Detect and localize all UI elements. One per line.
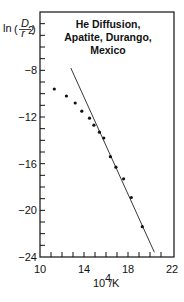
data-point [102, 136, 105, 139]
y-tick-label: −16 [18, 158, 37, 170]
data-point [92, 124, 95, 127]
ylabel-right-paren: ) [32, 23, 36, 35]
data-point [109, 155, 112, 158]
data-point [141, 225, 144, 228]
title-line-1: He Diffusion, [76, 18, 141, 30]
arrhenius-plot: 10141822 −8−12−16−20−24 He Diffusion, Ap… [0, 0, 184, 302]
ylabel-left-paren: ( [14, 23, 18, 35]
x-axis-label: 10 4 /K [93, 272, 120, 289]
x-tick-label: 22 [166, 263, 178, 275]
title-line-2: Apatite, Durango, [64, 31, 152, 43]
y-tick-label: −24 [18, 251, 37, 263]
title-line-3: Mexico [90, 44, 126, 56]
regression-line [71, 68, 155, 252]
xlabel-suffix: /K [109, 277, 120, 289]
data-point [122, 177, 125, 180]
data-point [80, 110, 83, 113]
data-point [88, 117, 91, 120]
x-tick-label: 10 [34, 263, 46, 275]
data-point [98, 131, 101, 134]
y-tick-label: −8 [24, 64, 37, 76]
x-tick-label: 18 [122, 263, 134, 275]
y-axis-tick-labels: −8−12−16−20−24 [18, 64, 37, 263]
ylabel-ln: ln [3, 22, 12, 34]
data-point [114, 166, 117, 169]
data-point [53, 87, 56, 90]
data-points [53, 87, 144, 228]
y-tick-label: −12 [18, 111, 37, 123]
chart-title: He Diffusion, Apatite, Durango, Mexico [64, 18, 152, 56]
x-tick-label: 14 [78, 263, 90, 275]
y-axis-ticks [40, 24, 45, 246]
x-axis-ticks [51, 252, 161, 257]
data-point [130, 196, 133, 199]
data-point [74, 101, 77, 104]
fit-line [71, 68, 155, 252]
y-tick-label: −20 [18, 204, 37, 216]
y-axis-label: ln ( D r 2 ) [3, 17, 36, 39]
data-point [65, 94, 68, 97]
xlabel-base: 10 [93, 277, 105, 289]
